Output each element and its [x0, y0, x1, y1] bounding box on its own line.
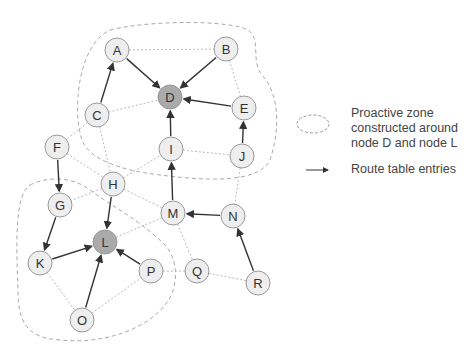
svg-text:C: C [92, 108, 101, 123]
svg-text:G: G [55, 198, 65, 213]
svg-text:N: N [228, 209, 237, 224]
node-I: I [159, 137, 183, 161]
node-H: H [101, 172, 125, 196]
route-E-D [184, 99, 231, 106]
node-D: D [158, 85, 182, 109]
nodes: ABCDEFGHIJKLMNOPQR [28, 37, 270, 332]
svg-text:A: A [113, 43, 122, 58]
svg-text:J: J [239, 149, 246, 164]
link-A-B [117, 49, 226, 50]
node-C: C [85, 103, 109, 127]
route-K-L [52, 246, 91, 259]
route-C-A [101, 63, 113, 102]
node-J: J [230, 144, 254, 168]
node-N: N [221, 204, 245, 228]
node-B: B [214, 37, 238, 61]
route-G-K [45, 217, 56, 249]
node-P: P [139, 259, 163, 283]
svg-text:P: P [147, 264, 156, 279]
node-O: O [70, 308, 94, 332]
node-L: L [93, 230, 117, 254]
node-A: A [105, 38, 129, 62]
node-M: M [161, 201, 185, 225]
node-F: F [45, 135, 69, 159]
svg-text:Q: Q [192, 264, 202, 279]
link-O-P [82, 271, 151, 320]
node-Q: Q [185, 259, 209, 283]
route-B-D [181, 57, 217, 87]
svg-text:B: B [222, 42, 231, 57]
svg-text:K: K [36, 256, 45, 271]
svg-text:M: M [168, 206, 179, 221]
route-A-D [127, 59, 160, 88]
node-G: G [48, 193, 72, 217]
legend-zone-line-2: constructed around [351, 121, 458, 136]
svg-text:I: I [169, 142, 173, 157]
route-M-I [171, 163, 172, 200]
node-K: K [28, 251, 52, 275]
svg-text:L: L [101, 235, 108, 250]
legend-zone-line-3: node D and node L [351, 136, 458, 151]
svg-text:O: O [77, 313, 87, 328]
route-F-G [58, 160, 60, 191]
node-R: R [246, 271, 270, 295]
route-J-E [243, 122, 244, 143]
svg-text:E: E [240, 101, 249, 116]
legend-zone-label: Proactive zone constructed around node D… [351, 106, 458, 151]
node-E: E [232, 96, 256, 120]
route-O-L [86, 255, 101, 307]
route-N-M [187, 214, 220, 216]
legend-zone-line-1: Proactive zone [351, 106, 458, 121]
svg-text:R: R [253, 276, 262, 291]
legend-zone-icon [297, 115, 329, 133]
legend-route-label: Route table entries [351, 162, 456, 177]
svg-text:F: F [53, 140, 61, 155]
route-P-L [117, 249, 140, 264]
svg-text:H: H [108, 177, 117, 192]
route-R-N [238, 229, 254, 271]
svg-text:D: D [165, 90, 174, 105]
